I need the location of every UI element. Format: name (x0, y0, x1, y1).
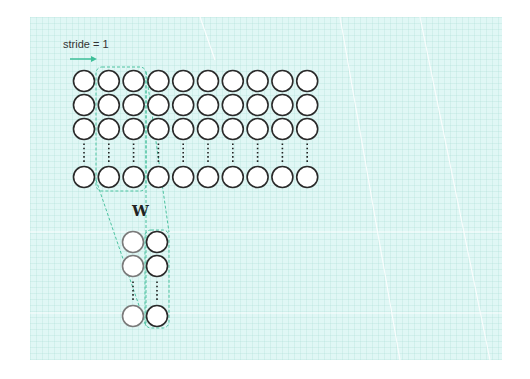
input-neuron (222, 71, 243, 92)
input-neuron (198, 95, 219, 116)
input-neuron-grid (74, 71, 318, 188)
input-neuron (148, 119, 169, 140)
kernel-weight (147, 306, 168, 327)
input-neuron (272, 95, 293, 116)
input-neuron (123, 95, 144, 116)
kernel-weight (147, 232, 168, 253)
input-neuron (173, 71, 194, 92)
stride-label: stride = 1 (63, 38, 109, 50)
kernel-label: W (132, 202, 149, 220)
input-neuron (173, 119, 194, 140)
input-neuron (98, 167, 119, 188)
input-neuron (148, 167, 169, 188)
input-neuron (297, 95, 318, 116)
input-neuron (272, 167, 293, 188)
input-neuron (222, 167, 243, 188)
input-neuron (297, 167, 318, 188)
convolution-diagram (0, 0, 530, 379)
input-neuron (198, 71, 219, 92)
input-neuron (98, 119, 119, 140)
input-neuron (198, 167, 219, 188)
input-neuron (173, 95, 194, 116)
input-neuron (297, 71, 318, 92)
input-neuron (272, 71, 293, 92)
input-neuron (247, 71, 268, 92)
input-neuron (123, 167, 144, 188)
input-neuron (247, 119, 268, 140)
kernel-weight (147, 256, 168, 277)
input-neuron (148, 71, 169, 92)
input-neuron (74, 119, 95, 140)
input-neuron (74, 95, 95, 116)
input-neuron (173, 167, 194, 188)
input-neuron (297, 119, 318, 140)
input-neuron (222, 95, 243, 116)
input-neuron (198, 119, 219, 140)
input-neuron (123, 119, 144, 140)
input-neuron (74, 71, 95, 92)
input-neuron (247, 167, 268, 188)
kernel-weight (123, 306, 144, 327)
background-glare (30, 17, 502, 360)
kernel-weight (123, 232, 144, 253)
input-neuron (272, 119, 293, 140)
input-neuron (74, 167, 95, 188)
input-neuron (98, 71, 119, 92)
stride-arrow-icon (70, 56, 97, 62)
input-neuron (222, 119, 243, 140)
input-neuron (123, 71, 144, 92)
input-neuron (98, 95, 119, 116)
input-neuron (247, 95, 268, 116)
input-neuron (148, 95, 169, 116)
kernel-weight (123, 256, 144, 277)
